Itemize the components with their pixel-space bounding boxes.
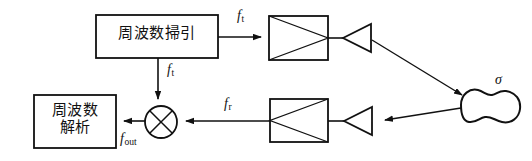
conn-target-to-rx-antenna: [385, 108, 461, 120]
rx-amplifier: [270, 99, 328, 142]
block-label-frequency-analysis: 周波数 解析: [36, 102, 114, 136]
fout-subscript: out: [124, 137, 137, 147]
mixer-icon: [145, 106, 177, 138]
diagram-canvas: 周波数掃引 周波数 解析 ft ft fr fout σ: [0, 0, 532, 161]
analysis-label-line1: 周波数: [52, 101, 99, 119]
target-sigma-label: σ: [495, 72, 502, 88]
ft-subscript: t: [241, 14, 244, 24]
tx-amplifier: [269, 16, 328, 60]
signal-label-fr-receive: fr: [224, 96, 232, 112]
signal-label-ft-local: ft: [167, 62, 174, 78]
ft2-subscript: t: [171, 68, 174, 78]
signal-label-ft-transmit: ft: [237, 8, 244, 24]
tx-antenna-icon: [343, 24, 371, 52]
radar-block-diagram: [0, 0, 532, 161]
rx-antenna-icon: [344, 107, 372, 135]
signal-label-fout: fout: [120, 131, 137, 147]
target-blob: [461, 90, 520, 123]
analysis-label-line2: 解析: [36, 119, 114, 136]
fr-subscript: r: [228, 102, 232, 112]
block-label-frequency-sweep: 周波数掃引: [98, 25, 216, 42]
conn-antenna-to-target: [372, 40, 462, 95]
